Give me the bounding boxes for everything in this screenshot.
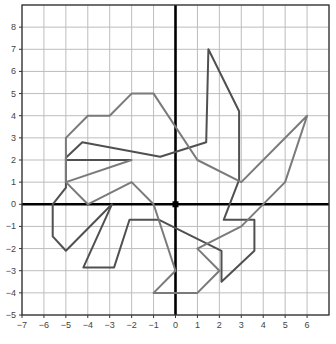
y-tick-label: 1 [11,177,16,187]
y-tick-label: 0 [11,199,16,209]
y-tick-label: −4 [6,288,16,298]
y-tick-label: 5 [11,89,16,99]
x-tick-label: 6 [305,320,310,330]
y-tick-label: 8 [11,22,16,32]
y-tick-label: −5 [6,310,16,320]
x-tick-label: −1 [148,320,158,330]
y-tick-label: −2 [6,244,16,254]
y-tick-label: 4 [11,111,16,121]
x-tick-label: 1 [195,320,200,330]
coordinate-plane: −7−6−5−4−3−2−10123456−5−4−3−2−1012345678 [0,0,336,344]
y-tick-label: −1 [6,221,16,231]
figures [53,49,307,293]
y-tick-label: 6 [11,66,16,76]
origin-marker [173,201,179,207]
x-tick-label: 0 [173,320,178,330]
x-tick-label: 3 [239,320,244,330]
y-tick-label: 7 [11,44,16,54]
x-tick-label: 2 [217,320,222,330]
x-tick-label: 4 [261,320,266,330]
x-tick-label: −5 [61,320,71,330]
x-tick-label: −2 [127,320,137,330]
y-tick-label: −3 [6,266,16,276]
x-tick-label: −6 [39,320,49,330]
x-tick-label: −4 [83,320,93,330]
x-tick-label: −3 [105,320,115,330]
x-tick-label: 5 [283,320,288,330]
y-tick-label: 3 [11,133,16,143]
x-tick-label: −7 [17,320,27,330]
y-tick-label: 2 [11,155,16,165]
light-figure [66,94,307,293]
tick-labels: −7−6−5−4−3−2−10123456−5−4−3−2−1012345678 [6,22,310,330]
